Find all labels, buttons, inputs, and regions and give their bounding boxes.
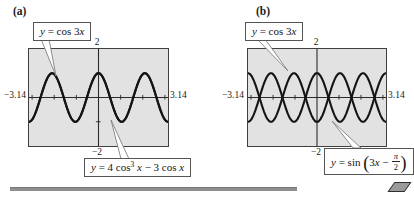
label-triple-angle-identity: y = 4 cos3 x − 3 cos x — [84, 158, 191, 177]
technology-parallelogram-icon — [387, 182, 411, 192]
ymax-label-b: 2 — [309, 37, 323, 47]
ymax-label-a: 2 — [90, 37, 104, 47]
panel-a-letter: (a) — [13, 5, 26, 17]
graph-b-canvas — [247, 48, 387, 147]
section-divider-rule — [10, 187, 297, 191]
ymin-label-a: −2 — [88, 147, 106, 157]
ymin-label-b: −2 — [307, 147, 325, 157]
label-sin-phase-shift: y = sin (3x − π2) — [324, 148, 414, 175]
xmin-label-b: −3.14 — [217, 90, 244, 100]
graph-a-canvas — [28, 48, 169, 147]
label-cos3x-b: y = cos 3x — [245, 22, 303, 41]
textbook-figure: (a) (b) −3.14 3.14 2 −2 −3.14 3.14 2 −2 … — [0, 0, 414, 199]
label-cos3x-a: y = cos 3x — [33, 22, 91, 41]
xmin-label-a: −3.14 — [0, 90, 26, 100]
xmax-label-b: 3.14 — [388, 90, 405, 100]
panel-b-letter: (b) — [256, 5, 270, 17]
xmax-label-a: 3.14 — [170, 90, 187, 100]
